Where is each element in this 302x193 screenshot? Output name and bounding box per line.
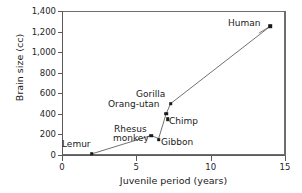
data-point-gibbon[interactable] [157,138,161,142]
y-axis-line [62,11,63,156]
plot-area [62,11,285,155]
y-tick-mark-1200 [58,32,62,33]
data-point-rhesus-monkey[interactable] [149,134,153,138]
y-tick-label-0: 0 [51,151,56,160]
y-tick-mark-600 [58,93,62,94]
y-tick-label-600: 600 [40,89,56,98]
y-tick-label-200: 200 [40,130,56,139]
x-tick-mark-15 [285,156,286,161]
y-tick-label-1200: 1,200 [32,28,56,37]
chimp-label: Chimp [169,117,198,126]
data-point-gorilla[interactable] [169,102,173,106]
lemur-label: Lemur [62,140,91,149]
data-point-orang-utan[interactable] [164,112,168,116]
y-tick-label-1000: 1,000 [32,48,56,57]
y-tick-label-800: 800 [40,69,56,78]
rhesus-label-2: monkey [113,134,149,143]
data-point-lemur[interactable] [90,152,94,156]
y-tick-label-1400: 1,400 [32,7,56,16]
x-tick-label-15: 15 [270,163,300,172]
x-tick-label-0: 0 [47,163,77,172]
x-tick-label-5: 5 [121,163,151,172]
x-axis-line [62,155,286,156]
gibbon-label: Gibbon [161,138,193,147]
y-tick-mark-1000 [58,52,62,53]
x-tick-mark-10 [211,156,212,161]
x-tick-label-10: 10 [196,163,226,172]
right-axis-line [285,11,286,156]
y-tick-mark-800 [58,73,62,74]
y-tick-mark-1400 [58,11,62,12]
gorilla-label: Gorilla [136,90,165,99]
x-tick-mark-5 [136,156,137,161]
y-tick-label-400: 400 [40,110,56,119]
chart-figure: 0 200 400 600 800 1,000 1,200 1,400 0 5 … [0,0,302,193]
data-point-human[interactable] [268,25,272,29]
x-tick-mark-0 [62,156,63,161]
y-tick-mark-200 [58,134,62,135]
y-axis-title: Brain size (cc) [14,13,25,123]
x-axis-title: Juvenile period (years) [62,175,285,186]
orang-utan-label: Orang-utan [108,100,159,109]
y-tick-mark-400 [58,114,62,115]
human-label: Human [228,19,260,28]
